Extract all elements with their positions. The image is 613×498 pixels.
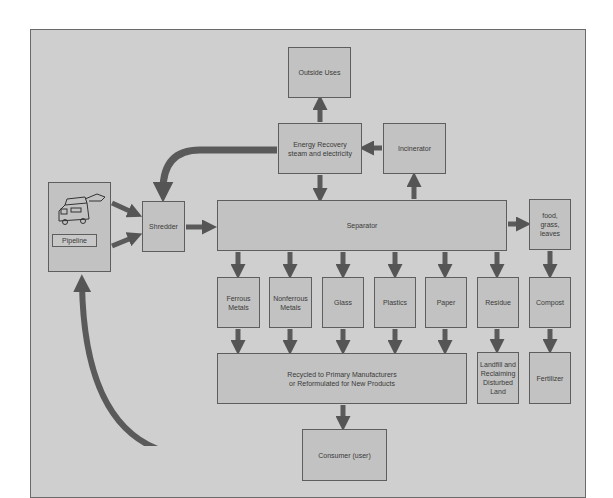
pipeline-label: Pipeline [62,236,87,245]
node-pipeline: Pipeline [48,182,111,272]
pipeline-label-box: Pipeline [52,234,97,247]
node-separator: Separator [217,200,507,251]
glass-label: Glass [334,298,352,307]
consumer-label: Consumer (user) [318,451,371,460]
nonferrous-label: Nonferrous Metals [273,294,308,312]
shredder-label: Shredder [149,222,178,231]
fertilizer-label: Fertilizer [537,374,564,383]
node-shredder: Shredder [142,201,185,252]
node-fertilizer: Fertilizer [529,352,571,404]
node-plastics: Plastics [374,277,416,328]
node-consumer: Consumer (user) [302,429,387,481]
node-residue: Residue [477,277,519,328]
node-paper: Paper [425,277,467,328]
compost-label: Compost [536,298,564,307]
ferrous-label: Ferrous Metals [226,294,250,312]
arrow-energy-shredder [163,150,277,190]
outside-uses-label: Outside Uses [298,68,340,77]
recycled-label: Recycled to Primary Manufacturers or Ref… [287,370,396,388]
incinerator-label: Incinerator [398,144,431,153]
landfill-label: Landfill and Reclaiming Disturbed Land [480,360,516,396]
node-outside-uses: Outside Uses [288,47,351,98]
residue-label: Residue [485,298,511,307]
arrow-pipeline-shredder-2 [112,237,134,246]
energy-recovery-label: Energy Recovery steam and electricity [288,140,352,158]
separator-label: Separator [347,221,378,230]
node-food: food, grass, leaves [529,199,571,250]
arrow-pipeline-shredder-1 [112,203,134,213]
node-recycled: Recycled to Primary Manufacturers or Ref… [217,353,467,404]
truck-icon [53,191,109,231]
node-compost: Compost [529,277,571,328]
plastics-label: Plastics [383,298,407,307]
node-nonferrous-metals: Nonferrous Metals [269,277,312,328]
node-ferrous-metals: Ferrous Metals [217,277,260,328]
node-landfill: Landfill and Reclaiming Disturbed Land [477,352,519,404]
node-energy-recovery: Energy Recovery steam and electricity [278,123,362,174]
food-label: food, grass, leaves [540,211,560,238]
node-incinerator: Incinerator [383,123,446,174]
node-glass: Glass [322,277,364,328]
paper-label: Paper [437,298,456,307]
